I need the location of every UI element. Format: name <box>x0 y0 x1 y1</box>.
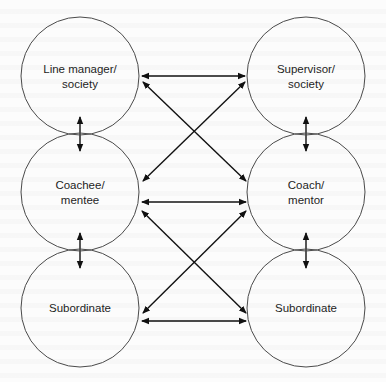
node-label: Supervisor/ <box>277 63 336 75</box>
node-label: Subordinate <box>275 302 337 314</box>
node-label: society <box>288 78 324 90</box>
node-label: Coach/ <box>288 179 325 191</box>
node-label: Line manager/ <box>43 63 117 75</box>
node-label: Coachee/ <box>55 179 105 191</box>
node-label: society <box>62 78 98 90</box>
node-label: mentee <box>61 194 99 206</box>
edges-layer <box>80 76 306 321</box>
nodes-layer: Line manager/societySupervisor/societyCo… <box>21 17 365 367</box>
node-label: Subordinate <box>49 302 111 314</box>
node-label: mentor <box>288 194 324 206</box>
relationship-diagram: Line manager/societySupervisor/societyCo… <box>0 0 386 382</box>
